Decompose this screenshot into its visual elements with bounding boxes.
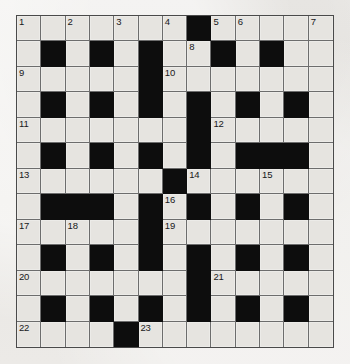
letter-square[interactable] [17,143,41,168]
letter-square[interactable] [163,245,187,270]
letter-square[interactable] [284,118,308,143]
letter-square[interactable] [284,271,308,296]
letter-square[interactable] [90,220,114,245]
letter-square[interactable] [41,67,65,92]
letter-square[interactable]: 5 [211,16,235,41]
letter-square[interactable] [211,245,235,270]
letter-square[interactable] [260,16,284,41]
letter-square[interactable] [236,271,260,296]
letter-square[interactable] [41,16,65,41]
letter-square[interactable]: 12 [211,118,235,143]
letter-square[interactable] [66,41,90,66]
letter-square[interactable] [66,67,90,92]
letter-square[interactable]: 16 [163,194,187,219]
crossword-grid[interactable]: 1234567891011121314151617181920212223 [16,15,334,348]
letter-square[interactable]: 9 [17,67,41,92]
letter-square[interactable] [90,271,114,296]
letter-square[interactable] [309,143,333,168]
letter-square[interactable] [309,92,333,117]
letter-square[interactable] [309,118,333,143]
letter-square[interactable] [260,92,284,117]
letter-square[interactable] [66,271,90,296]
letter-square[interactable] [236,41,260,66]
letter-square[interactable] [260,322,284,347]
letter-square[interactable]: 14 [187,169,211,194]
letter-square[interactable] [211,194,235,219]
letter-square[interactable] [309,67,333,92]
letter-square[interactable] [114,41,138,66]
letter-square[interactable] [309,194,333,219]
letter-square[interactable] [66,92,90,117]
letter-square[interactable] [309,220,333,245]
letter-square[interactable] [309,41,333,66]
letter-square[interactable] [139,271,163,296]
letter-square[interactable] [66,143,90,168]
letter-square[interactable]: 19 [163,220,187,245]
letter-square[interactable]: 7 [309,16,333,41]
letter-square[interactable] [139,169,163,194]
letter-square[interactable]: 3 [114,16,138,41]
letter-square[interactable]: 11 [17,118,41,143]
letter-square[interactable] [17,41,41,66]
letter-square[interactable] [17,245,41,270]
letter-square[interactable] [211,92,235,117]
letter-square[interactable] [66,322,90,347]
letter-square[interactable] [114,271,138,296]
letter-square[interactable] [309,322,333,347]
letter-square[interactable] [187,220,211,245]
letter-square[interactable]: 17 [17,220,41,245]
letter-square[interactable] [163,271,187,296]
letter-square[interactable] [114,194,138,219]
letter-square[interactable] [211,296,235,321]
letter-square[interactable] [66,169,90,194]
letter-square[interactable] [163,92,187,117]
letter-square[interactable] [163,296,187,321]
letter-square[interactable] [236,118,260,143]
letter-square[interactable] [260,118,284,143]
letter-square[interactable]: 13 [17,169,41,194]
letter-square[interactable]: 4 [163,16,187,41]
letter-square[interactable] [66,296,90,321]
letter-square[interactable] [41,322,65,347]
letter-square[interactable] [114,296,138,321]
letter-square[interactable] [260,194,284,219]
letter-square[interactable] [309,169,333,194]
letter-square[interactable] [90,67,114,92]
letter-square[interactable] [236,169,260,194]
letter-square[interactable] [114,118,138,143]
letter-square[interactable] [309,245,333,270]
letter-square[interactable] [260,271,284,296]
letter-square[interactable] [90,169,114,194]
letter-square[interactable] [139,16,163,41]
letter-square[interactable] [211,143,235,168]
letter-square[interactable] [90,16,114,41]
letter-square[interactable] [41,169,65,194]
letter-square[interactable] [211,220,235,245]
letter-square[interactable] [114,169,138,194]
letter-square[interactable] [163,41,187,66]
letter-square[interactable] [114,67,138,92]
letter-square[interactable] [187,322,211,347]
letter-square[interactable] [66,118,90,143]
letter-square[interactable] [236,67,260,92]
letter-square[interactable] [41,220,65,245]
letter-square[interactable] [236,322,260,347]
letter-square[interactable] [309,271,333,296]
letter-square[interactable]: 23 [139,322,163,347]
letter-square[interactable] [139,118,163,143]
letter-square[interactable] [114,245,138,270]
letter-square[interactable] [163,143,187,168]
letter-square[interactable] [17,92,41,117]
letter-square[interactable] [284,220,308,245]
letter-square[interactable] [90,322,114,347]
letter-square[interactable]: 21 [211,271,235,296]
letter-square[interactable] [284,169,308,194]
letter-square[interactable] [41,118,65,143]
letter-square[interactable] [163,118,187,143]
letter-square[interactable]: 6 [236,16,260,41]
letter-square[interactable] [260,296,284,321]
letter-square[interactable] [284,41,308,66]
letter-square[interactable] [114,220,138,245]
letter-square[interactable]: 10 [163,67,187,92]
letter-square[interactable] [260,67,284,92]
